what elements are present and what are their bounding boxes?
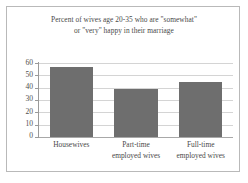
category-label-line: employed wives [168,151,233,162]
category-label-line: Housewives [39,140,104,151]
x-axis-line [39,137,233,138]
category-label-housewives: Housewives [39,140,104,172]
category-label-line: Part-time [104,140,169,151]
category-label-line: Full-time [168,140,233,151]
y-tick-label-50: 50 [3,71,33,79]
chart-title: Percent of wives age 20-35 who are "some… [14,14,234,36]
y-tick-label-60: 60 [3,59,33,67]
bar-housewives[interactable] [50,67,93,137]
y-tick-label-40: 40 [3,83,33,91]
chart-title-line-2: or "very" happy in their marriage [14,25,234,36]
category-label-line: employed wives [104,151,169,162]
category-label-full-time-employed-wives: Full-time employed wives [168,140,233,172]
category-label-part-time-employed-wives: Part-time employed wives [104,140,169,172]
y-tick-label-0: 0 [3,132,33,140]
y-tick-label-30: 30 [3,95,33,103]
x-axis-category-labels: Housewives Part-time employed wives Full… [39,140,233,172]
bar-part-time-employed-wives[interactable] [114,89,157,137]
bar-full-time-employed-wives[interactable] [179,82,222,138]
chart-title-line-1: Percent of wives age 20-35 who are "some… [14,14,234,25]
bars-layer [39,63,233,137]
y-tick-label-10: 10 [3,120,33,128]
chart-screenshot: Percent of wives age 20-35 who are "some… [0,0,248,183]
y-tick-label-20: 20 [3,108,33,116]
y-axis-tick-labels: 60 50 40 30 20 10 0 [0,0,33,183]
